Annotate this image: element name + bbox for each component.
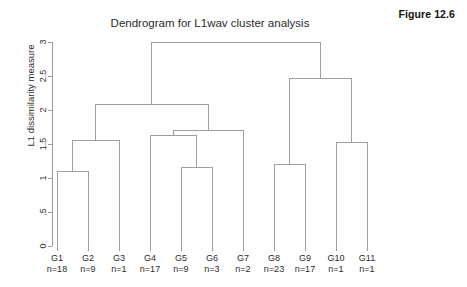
leaf-count-label: n=2 xyxy=(235,264,250,274)
leaf-count-label: n=23 xyxy=(264,264,284,274)
leaf-label: G1 xyxy=(51,253,63,263)
leaf-label: G7 xyxy=(237,253,249,263)
dendrogram-tree xyxy=(57,42,367,246)
y-tick-label: .5 xyxy=(38,208,48,216)
y-tick-label: 1 xyxy=(38,175,48,180)
leaf-label: G3 xyxy=(113,253,125,263)
dendrogram-branch xyxy=(274,164,305,246)
leaf-label: G11 xyxy=(359,253,375,263)
dendrogram-branch xyxy=(152,42,321,105)
dendrogram-branch xyxy=(181,168,212,246)
y-axis: 0.511.522.53 xyxy=(38,39,52,248)
dendrogram-branch xyxy=(290,78,352,164)
leaf-count-label: n=17 xyxy=(140,264,160,274)
leaf-count-label: n=3 xyxy=(204,264,219,274)
dendrogram-plot: 0.511.522.53 G1n=18G2n=9G3n=1G4n=17G5n=9… xyxy=(0,0,467,287)
dendrogram-branch xyxy=(57,171,88,246)
leaf-count-label: n=1 xyxy=(111,264,126,274)
leaf-label: G5 xyxy=(175,253,187,263)
dendrogram-branch xyxy=(336,143,367,246)
leaf-count-label: n=1 xyxy=(359,264,374,274)
leaf-label: G9 xyxy=(299,253,311,263)
y-tick-label: 3 xyxy=(38,39,48,44)
leaf-count-label: n=18 xyxy=(47,264,67,274)
leaf-count-label: n=17 xyxy=(295,264,315,274)
leaf-label: G8 xyxy=(268,253,280,263)
y-tick-label: 2 xyxy=(38,107,48,112)
figure-container: Figure 12.6 Dendrogram for L1wav cluster… xyxy=(0,0,467,287)
y-tick-label: 1.5 xyxy=(38,138,48,151)
y-tick-label: 2.5 xyxy=(38,70,48,83)
leaf-count-label: n=1 xyxy=(328,264,343,274)
leaf-label: G4 xyxy=(144,253,156,263)
leaf-count-label: n=9 xyxy=(80,264,95,274)
dendrogram-branch xyxy=(150,135,197,246)
leaf-labels: G1n=18G2n=9G3n=1G4n=17G5n=9G6n=3G7n=2G8n… xyxy=(47,246,375,274)
leaf-label: G6 xyxy=(206,253,218,263)
dendrogram-branch xyxy=(73,141,120,246)
leaf-label: G10 xyxy=(327,253,344,263)
leaf-label: G2 xyxy=(82,253,94,263)
leaf-count-label: n=9 xyxy=(173,264,188,274)
y-tick-label: 0 xyxy=(38,243,48,248)
dendrogram-branch xyxy=(173,130,243,246)
